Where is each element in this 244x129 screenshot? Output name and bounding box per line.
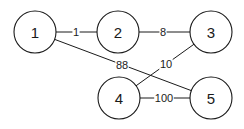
edge-weight-text: 1 — [73, 26, 79, 38]
edge-weight-text: 8 — [160, 26, 166, 38]
edge-weight-label: 88 — [115, 59, 128, 71]
edge-weight-text: 100 — [155, 92, 173, 104]
graph-node-5: 5 — [190, 77, 232, 119]
node-label: 5 — [207, 90, 215, 107]
edge-weight-label: 1 — [72, 26, 79, 38]
edge-weight-label: 10 — [159, 58, 172, 70]
edge-weight-label: 8 — [159, 26, 166, 38]
graph-node-4: 4 — [98, 77, 140, 119]
graph-node-1: 1 — [14, 11, 56, 53]
weighted-graph-diagram: 12345 188810100 — [0, 0, 244, 129]
node-label: 1 — [31, 24, 39, 41]
node-label: 2 — [114, 24, 122, 41]
node-label: 4 — [115, 90, 123, 107]
edge-weight-text: 10 — [160, 58, 172, 70]
node-label: 3 — [207, 24, 215, 41]
edge-weight-text: 88 — [116, 59, 128, 71]
edge-weight-label: 100 — [154, 92, 174, 104]
graph-node-2: 2 — [97, 11, 139, 53]
graph-node-3: 3 — [190, 11, 232, 53]
